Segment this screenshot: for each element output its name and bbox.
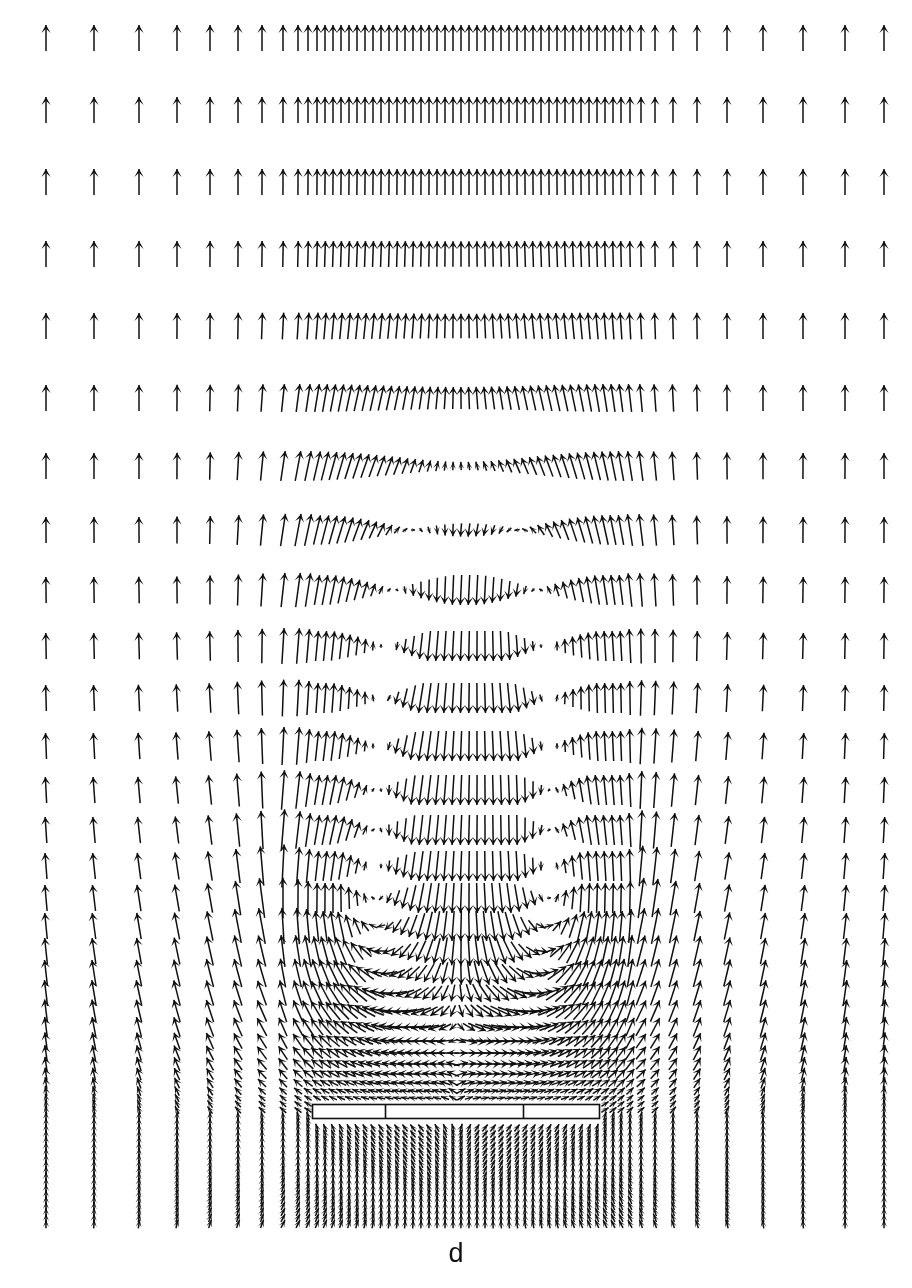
panel-label: d xyxy=(0,1238,912,1269)
vector-field-plot xyxy=(0,0,912,1288)
velocity-vector-field-figure: d xyxy=(0,0,912,1288)
